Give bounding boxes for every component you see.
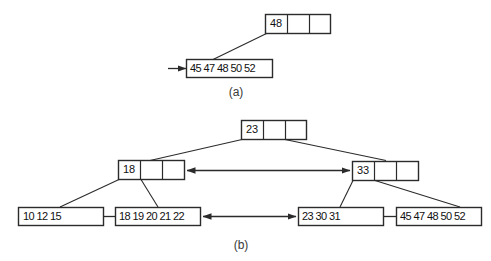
- panel-a-caption: (a): [229, 85, 244, 99]
- node-a-root[interactable]: 48: [266, 15, 331, 34]
- node-b-internal-right-key-0: 33: [357, 164, 369, 176]
- node-b-internal-left[interactable]: 18: [119, 161, 185, 180]
- node-a-leaf-1[interactable]: 45 47 48 50 52: [187, 60, 273, 78]
- edge-a-root-to-leaf: [212, 34, 267, 61]
- panel-b-caption: (b): [234, 238, 249, 252]
- node-b-internal-left-key-0: 18: [123, 163, 135, 175]
- node-b-leaf-3[interactable]: 23 30 31: [299, 208, 384, 226]
- panel-a: 48 45 47 48 50 52 (a): [168, 15, 331, 100]
- node-a-root-key-0: 48: [270, 17, 282, 29]
- node-b-leaf-2-keys: 18 19 20 21 22: [119, 210, 184, 222]
- edge-b-right-internal-to-leaf4: [375, 181, 460, 208]
- edge-b-left-internal-to-leaf1: [60, 180, 119, 208]
- node-b-leaf-4[interactable]: 45 47 48 50 52: [397, 208, 482, 226]
- node-b-leaf-2[interactable]: 18 19 20 21 22: [116, 208, 201, 226]
- edge-b-root-to-right-internal: [285, 140, 386, 161]
- node-b-leaf-1[interactable]: 10 12 15: [19, 208, 104, 226]
- node-b-root-key-0: 23: [246, 123, 258, 135]
- node-b-internal-right[interactable]: 33: [353, 162, 419, 181]
- panel-b: 23 18 33: [19, 121, 482, 253]
- edge-b-root-to-left-internal: [150, 140, 242, 161]
- node-b-leaf-4-keys: 45 47 48 50 52: [400, 210, 465, 222]
- edge-b-left-internal-to-leaf2: [141, 180, 158, 208]
- figure-canvas: 48 45 47 48 50 52 (a) 23: [0, 0, 491, 261]
- edge-b-right-internal-to-leaf3: [340, 181, 353, 208]
- node-b-leaf-1-keys: 10 12 15: [23, 210, 62, 222]
- node-b-root[interactable]: 23: [242, 121, 307, 140]
- node-a-leaf-1-keys: 45 47 48 50 52: [190, 62, 255, 74]
- node-b-leaf-3-keys: 23 30 31: [302, 210, 341, 222]
- b-plus-tree-svg: 48 45 47 48 50 52 (a) 23: [0, 0, 491, 261]
